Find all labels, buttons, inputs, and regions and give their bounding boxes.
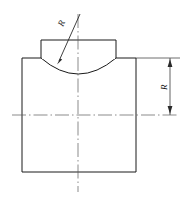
dimension-arrowhead-bottom — [168, 106, 173, 114]
radius-leader-arrowhead — [57, 59, 62, 65]
technical-drawing-canvas: R R — [0, 0, 190, 202]
dimension-arrowhead-top — [168, 59, 173, 67]
part-outline-drawing: R R — [0, 0, 190, 202]
part-body-outline — [22, 40, 136, 172]
radius-leader-label: R — [55, 18, 67, 28]
concave-radius-arc — [41, 58, 116, 74]
radius-vertical-dimension-label: R — [159, 84, 169, 91]
